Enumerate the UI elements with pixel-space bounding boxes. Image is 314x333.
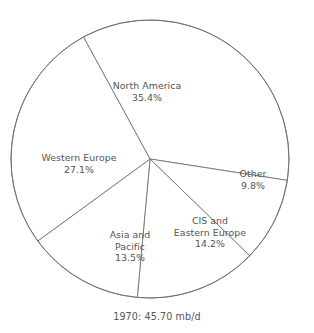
slice-label-cis-name-line2: Eastern Europe bbox=[160, 227, 260, 239]
chart-caption: 1970: 45.70 mb/d bbox=[0, 311, 314, 322]
slice-label-asia-value: 13.5% bbox=[90, 252, 170, 264]
slice-label-north-america: North America 35.4% bbox=[87, 80, 207, 103]
slice-label-other-value: 9.8% bbox=[218, 180, 288, 192]
slice-label-western-europe-name: Western Europe bbox=[19, 152, 139, 164]
slice-label-cis-value: 14.2% bbox=[160, 238, 260, 250]
slice-label-cis-and-eastern-europe: CIS and Eastern Europe 14.2% bbox=[160, 215, 260, 250]
slice-label-north-america-value: 35.4% bbox=[87, 92, 207, 104]
slice-label-north-america-name: North America bbox=[87, 80, 207, 92]
slice-label-other-name: Other bbox=[218, 168, 288, 180]
slice-label-cis-name-line1: CIS and bbox=[160, 215, 260, 227]
slice-label-other: Other 9.8% bbox=[218, 168, 288, 191]
slice-label-asia-name-line2: Pacific bbox=[90, 241, 170, 253]
slice-label-asia-name-line1: Asia and bbox=[90, 229, 170, 241]
slice-label-western-europe-value: 27.1% bbox=[19, 164, 139, 176]
slice-label-western-europe: Western Europe 27.1% bbox=[19, 152, 139, 175]
slice-label-asia-and-pacific: Asia and Pacific 13.5% bbox=[90, 229, 170, 264]
pie-chart: North America 35.4% Other 9.8% CIS and E… bbox=[0, 0, 314, 333]
